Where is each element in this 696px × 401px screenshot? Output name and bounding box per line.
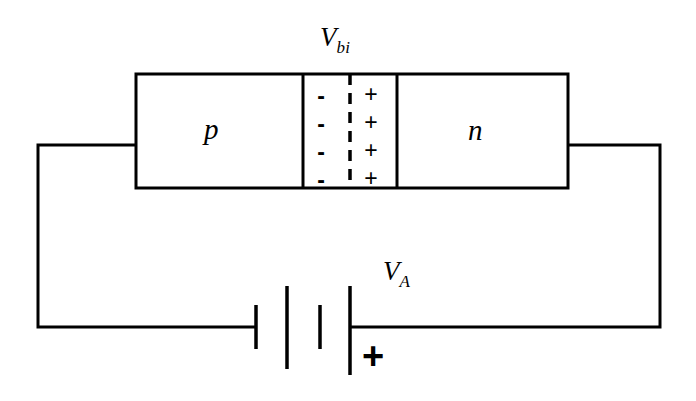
depletion-negative-sign: - xyxy=(313,141,329,164)
pn-junction-circuit-figure: Vbi p n - - - - + + + + VA + xyxy=(0,0,696,401)
builtin-voltage-symbol: V xyxy=(320,22,337,52)
left-circuit-wire xyxy=(38,145,256,327)
diode-body-rectangle xyxy=(136,74,568,188)
n-region-label: n xyxy=(468,116,483,145)
applied-voltage-subscript: A xyxy=(400,272,411,291)
battery-positive-terminal-marker: + xyxy=(362,337,384,375)
builtin-voltage-subscript: bi xyxy=(337,38,351,57)
applied-voltage-symbol: V xyxy=(383,256,400,286)
depletion-positive-sign: + xyxy=(362,139,380,162)
p-region-label: p xyxy=(204,115,219,144)
depletion-positive-sign: + xyxy=(362,167,380,190)
builtin-voltage-label: Vbi xyxy=(320,24,350,56)
circuit-schematic-svg xyxy=(0,0,696,401)
applied-voltage-label: VA xyxy=(383,258,410,290)
depletion-negative-sign: - xyxy=(313,113,329,136)
depletion-negative-sign: - xyxy=(313,85,329,108)
depletion-positive-sign: + xyxy=(362,111,380,134)
depletion-negative-sign: - xyxy=(313,169,329,192)
depletion-positive-sign: + xyxy=(362,83,380,106)
